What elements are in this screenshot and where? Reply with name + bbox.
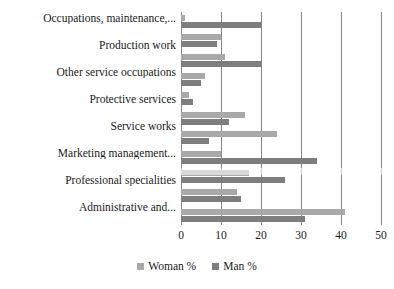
bar-man <box>181 22 261 28</box>
x-tick-10: 10 <box>215 228 227 242</box>
legend-label: Woman % <box>148 259 196 273</box>
bar-woman <box>181 170 249 176</box>
bar-man <box>181 138 209 144</box>
plot-area <box>181 12 381 225</box>
legend-label: Man % <box>223 259 257 273</box>
bar-group <box>181 128 381 147</box>
bar-woman <box>181 34 221 40</box>
gridline-50 <box>381 12 382 225</box>
bar-woman <box>181 151 221 157</box>
bar-man <box>181 80 201 86</box>
bar-group <box>181 70 381 89</box>
legend-item-woman[interactable]: Woman % <box>137 259 196 273</box>
category-label-other-service-occupations: Other service occupations <box>0 66 176 78</box>
bar-man <box>181 177 285 183</box>
bar-series-container <box>181 12 381 225</box>
x-tick-50: 50 <box>375 228 387 242</box>
x-tick-30: 30 <box>295 228 307 242</box>
category-label-protective-services: Protective services <box>0 93 176 105</box>
bar-man <box>181 99 193 105</box>
bar-group <box>181 12 381 31</box>
bar-woman <box>181 15 185 21</box>
category-label-marketing-management: Marketing management... <box>0 147 176 159</box>
bar-woman <box>181 73 205 79</box>
legend-item-man[interactable]: Man % <box>212 259 257 273</box>
bar-woman <box>181 189 237 195</box>
bar-group <box>181 148 381 167</box>
bar-group <box>181 186 381 205</box>
bar-man <box>181 196 241 202</box>
bar-group <box>181 89 381 108</box>
legend-swatch-icon <box>212 263 219 270</box>
bar-group <box>181 109 381 128</box>
bar-man <box>181 119 229 125</box>
category-label-production-work: Production work <box>0 39 176 51</box>
category-label-service-works: Service works <box>0 120 176 132</box>
category-label-professional-specialities: Professional specialities <box>0 174 176 186</box>
bar-group <box>181 167 381 186</box>
bar-group <box>181 206 381 225</box>
bar-woman <box>181 112 245 118</box>
legend-swatch-icon <box>137 263 144 270</box>
bar-group <box>181 31 381 50</box>
bar-woman <box>181 131 277 137</box>
chart-legend: Woman %Man % <box>0 259 394 273</box>
x-tick-0: 0 <box>178 228 184 242</box>
bar-chart: Occupations, maintenance,... Production … <box>0 0 394 289</box>
x-tick-20: 20 <box>255 228 267 242</box>
bar-woman <box>181 209 345 215</box>
category-axis: Occupations, maintenance,... Production … <box>0 12 176 225</box>
bar-woman <box>181 54 225 60</box>
bar-man <box>181 61 261 67</box>
bar-woman <box>181 92 189 98</box>
x-tick-40: 40 <box>335 228 347 242</box>
category-label-occupations-maintenance: Occupations, maintenance,... <box>0 12 176 24</box>
bar-man <box>181 158 317 164</box>
category-label-administrative-and: Administrative and... <box>0 201 176 213</box>
value-axis: 01020304050 <box>181 228 381 244</box>
bar-man <box>181 41 217 47</box>
bar-group <box>181 51 381 70</box>
bar-man <box>181 216 305 222</box>
